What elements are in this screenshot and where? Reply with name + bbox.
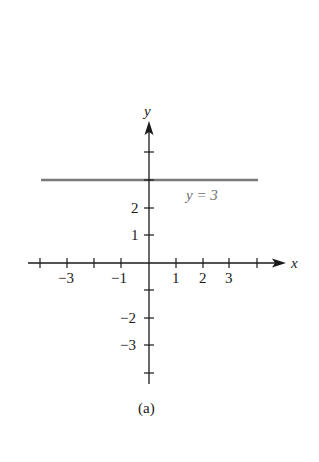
x-tick-label: 1 [172, 270, 180, 286]
x-tick-label: −1 [111, 270, 127, 286]
x-tick-label: 2 [199, 270, 207, 286]
x-tick-label: −3 [58, 270, 74, 286]
y-tick-label: −2 [120, 310, 136, 326]
y-tick-label: 2 [131, 200, 139, 216]
graph-y-equals-3: y x −3 −1 1 2 3 2 1 −2 −3 y = 3 (a) [0, 0, 319, 462]
y-axis-label: y [142, 103, 151, 119]
y-tick-label: −3 [120, 337, 136, 353]
line-annotation: y = 3 [184, 187, 218, 203]
x-axis-label: x [290, 255, 298, 271]
y-tick-label: 1 [131, 227, 139, 243]
figure-caption: (a) [138, 400, 155, 417]
y-axis [144, 121, 154, 384]
x-axis [28, 258, 286, 268]
x-tick-label: 3 [225, 270, 233, 286]
